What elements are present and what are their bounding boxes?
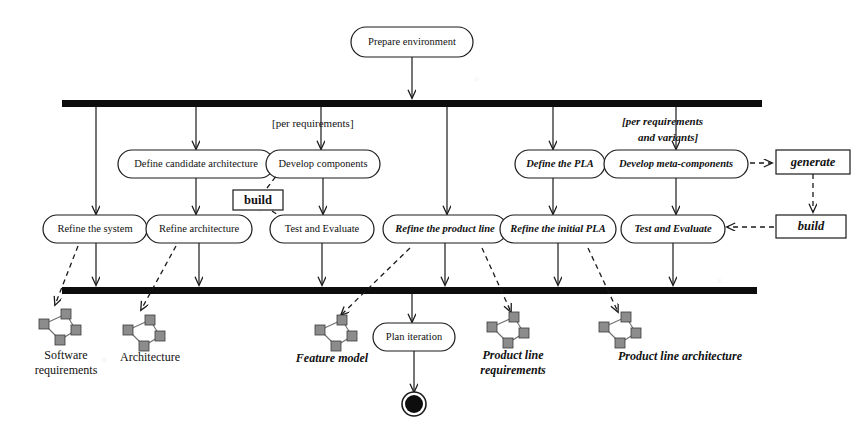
artifact-architecture-glyph — [123, 315, 165, 351]
activity-develop-meta-components-label: Develop meta-components — [618, 158, 733, 169]
activity-refine-the-initial-pla-label: Refine the initial PLA — [509, 223, 605, 234]
activity-refine-the-initial-pla[interactable]: Refine the initial PLA — [500, 215, 616, 243]
edge-refine-product-line-to-product-line-requirements — [482, 248, 511, 312]
activity-plan-iteration-label: Plan iteration — [386, 331, 443, 342]
activity-refine-the-product-line[interactable]: Refine the product line — [383, 215, 507, 243]
artifact-software-requirements[interactable]: Software requirements — [35, 309, 98, 377]
activity-develop-components-label: Develop components — [279, 158, 368, 169]
activity-test-and-evaluate-right-label: Test and Evaluate — [634, 223, 712, 234]
artifact-product-line-requirements-glyph — [487, 312, 529, 348]
artifact-feature-model-glyph — [315, 315, 357, 351]
activity-develop-meta-components[interactable]: Develop meta-components — [604, 150, 748, 178]
activity-define-candidate-architecture-label: Define candidate architecture — [134, 158, 258, 169]
edge-refine-architecture-to-architecture — [141, 246, 176, 310]
artifact-product-line-requirements[interactable]: Product line requirements — [480, 312, 546, 377]
activity-refine-the-system[interactable]: Refine the system — [43, 215, 147, 243]
artifact-architecture-line-0: Architecture — [120, 350, 180, 364]
edge-refine-initial-pla-to-product-line-architecture — [588, 248, 618, 312]
activity-define-candidate-architecture[interactable]: Define candidate architecture — [118, 150, 274, 178]
note-build-left[interactable]: build — [233, 190, 283, 210]
activity-test-and-evaluate-right[interactable]: Test and Evaluate — [621, 215, 725, 243]
edge-refine-system-to-software-requirements — [55, 246, 78, 305]
activity-refine-the-system-label: Refine the system — [57, 223, 132, 234]
activity-prepare-environment[interactable]: Prepare environment — [351, 27, 473, 57]
note-build-right-label: build — [798, 219, 825, 233]
activity-prepare-environment-label: Prepare environment — [368, 36, 456, 47]
guard-right: [per requirements and variants] — [622, 115, 703, 143]
diagram-svg: Prepare environment [per requirements] [… — [0, 0, 867, 439]
artifact-architecture[interactable]: Architecture — [120, 315, 180, 364]
guard-left-line-0: [per requirements] — [272, 117, 354, 129]
guard-right-line-0: [per requirements — [622, 115, 703, 127]
activity-refine-the-product-line-label: Refine the product line — [394, 223, 495, 234]
edge-refine-product-line-to-feature-model — [341, 248, 410, 315]
activity-diagram-canvas: Prepare environment [per requirements] [… — [0, 0, 867, 439]
join-bar — [62, 287, 757, 294]
note-generate[interactable]: generate — [776, 150, 850, 174]
note-build-left-label: build — [244, 193, 272, 207]
guard-right-line-1: and variants] — [638, 131, 699, 143]
artifact-product-line-requirements-line-1: requirements — [480, 363, 546, 377]
activity-define-the-pla[interactable]: Define the PLA — [515, 150, 605, 178]
activity-refine-architecture[interactable]: Refine architecture — [146, 215, 252, 243]
artifact-software-requirements-line-1: requirements — [35, 363, 98, 377]
activity-test-and-evaluate-left[interactable]: Test and Evaluate — [270, 215, 374, 243]
note-generate-label: generate — [790, 155, 836, 169]
guard-left: [per requirements] — [272, 117, 354, 129]
artifact-software-requirements-line-0: Software — [44, 348, 87, 362]
edge-build-left-to-develop-components — [267, 175, 277, 188]
artifact-product-line-requirements-line-0: Product line — [482, 348, 544, 362]
activity-define-the-pla-label: Define the PLA — [525, 158, 594, 169]
activity-test-and-evaluate-left-label: Test and Evaluate — [285, 223, 360, 234]
fork-bar — [62, 100, 762, 107]
note-build-right[interactable]: build — [776, 215, 846, 238]
activity-develop-components[interactable]: Develop components — [266, 150, 380, 178]
artifact-product-line-architecture-glyph — [599, 312, 641, 348]
artifact-software-requirements-glyph — [39, 309, 81, 345]
artifact-feature-model[interactable]: Feature model — [295, 315, 369, 365]
artifact-product-line-architecture[interactable]: Product line architecture — [599, 312, 743, 363]
artifact-product-line-architecture-line-0: Product line architecture — [618, 349, 743, 363]
activity-refine-architecture-label: Refine architecture — [159, 223, 239, 234]
activity-plan-iteration[interactable]: Plan iteration — [373, 323, 455, 351]
final-node — [402, 392, 426, 416]
artifact-feature-model-line-0: Feature model — [295, 351, 369, 365]
